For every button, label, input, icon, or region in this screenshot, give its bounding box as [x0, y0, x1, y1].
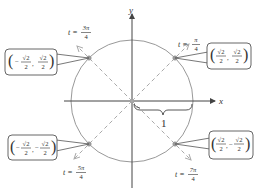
svg-text:7π: 7π: [190, 166, 197, 173]
radius-label: 1: [161, 117, 167, 129]
svg-text:,: ,: [227, 54, 229, 62]
svg-text:2: 2: [219, 145, 222, 152]
svg-text:−: −: [229, 141, 233, 149]
ray-q3: [74, 101, 132, 159]
svg-text:4: 4: [84, 33, 88, 40]
svg-text:√2: √2: [23, 54, 30, 61]
svg-text:−: −: [35, 144, 39, 152]
coord-callout-q2: ( − √2 2 , √2 2 ): [5, 49, 89, 75]
radius-brace: [134, 104, 192, 115]
svg-text:(: (: [210, 46, 215, 64]
svg-text:): ): [243, 46, 248, 64]
svg-text:,: ,: [32, 146, 34, 154]
x-axis-label: x: [218, 96, 223, 106]
svg-text:t =: t =: [63, 168, 73, 177]
svg-text:t =: t =: [175, 170, 185, 179]
svg-text:2: 2: [41, 63, 44, 70]
svg-text:(: (: [8, 52, 13, 70]
svg-text:√2: √2: [40, 54, 47, 61]
svg-text:2: 2: [219, 57, 222, 64]
svg-text:2: 2: [235, 57, 238, 64]
svg-text:t =: t =: [178, 40, 188, 49]
unit-circle-diagram: x y 1 t = π 4 t = 3π 4 t = 5π 4 t = 7π 4: [0, 0, 256, 192]
svg-text:2: 2: [24, 63, 27, 70]
svg-text:,: ,: [226, 142, 228, 150]
ray-q1: [132, 44, 189, 101]
t-label-q2: t = 3π 4: [68, 24, 91, 40]
ray-q2: [77, 46, 132, 101]
svg-text:√2: √2: [236, 136, 243, 143]
t-label-q3: t = 5π 4: [63, 164, 86, 180]
svg-text:): ): [49, 52, 54, 70]
svg-text:π: π: [194, 36, 198, 43]
svg-text:2: 2: [237, 145, 240, 152]
svg-text:√2: √2: [218, 48, 225, 55]
coord-callout-q4: ( √2 2 , − √2 2 ): [175, 131, 253, 159]
svg-text:2: 2: [24, 149, 27, 156]
svg-text:4: 4: [79, 173, 83, 180]
svg-text:3π: 3π: [82, 24, 90, 31]
svg-text:4: 4: [191, 175, 195, 182]
svg-text:,: ,: [32, 60, 34, 68]
svg-text:): ): [245, 135, 250, 153]
svg-text:): ): [51, 138, 56, 156]
svg-text:2: 2: [43, 149, 46, 156]
svg-text:√2: √2: [234, 48, 241, 55]
svg-text:√2: √2: [42, 140, 49, 147]
svg-text:√2: √2: [23, 140, 30, 147]
svg-text:−: −: [15, 58, 19, 66]
svg-text:(: (: [10, 138, 15, 156]
y-axis-label: y: [128, 5, 133, 15]
t-label-q4: t = 7π 4: [175, 166, 198, 182]
svg-text:(: (: [211, 135, 216, 153]
svg-text:√2: √2: [218, 136, 225, 143]
svg-text:4: 4: [194, 45, 198, 52]
svg-text:t =: t =: [68, 28, 78, 37]
svg-text:5π: 5π: [78, 164, 85, 171]
svg-text:−: −: [16, 144, 20, 152]
